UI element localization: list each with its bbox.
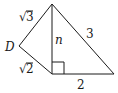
label-base: 2 <box>77 78 85 92</box>
label-hypotenuse: 3 <box>86 27 94 41</box>
label-altitude-n: n <box>55 33 63 47</box>
geometry-diagram: √ 3 D √ 2 n 3 2 <box>0 0 118 93</box>
label-sqrt3: √ 3 <box>19 10 34 24</box>
right-angle-marker <box>52 62 64 74</box>
label-vertex-D: D <box>4 40 15 54</box>
label-sqrt2: √ 2 <box>19 62 34 76</box>
svg-text:3: 3 <box>26 10 34 24</box>
svg-text:2: 2 <box>26 62 34 76</box>
